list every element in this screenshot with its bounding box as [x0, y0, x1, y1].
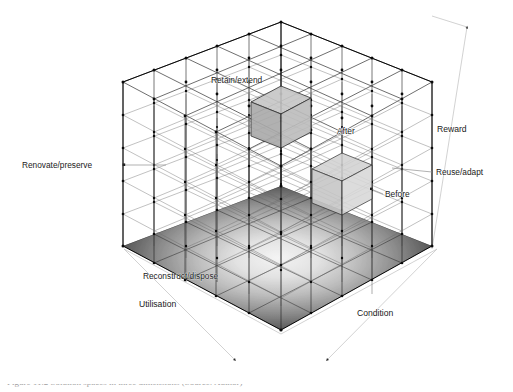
marker-label-after: After — [337, 126, 355, 136]
label-reuse-adapt: Reuse/adapt — [436, 167, 484, 177]
label-reconstruct-dispose: Reconstruct/dispose — [143, 271, 219, 281]
axis-label-utilisation: Utilisation — [139, 299, 176, 309]
label-renovate-preserve: Renovate/preserve — [22, 160, 92, 170]
tick-renovate — [123, 163, 126, 166]
marker-label-before: Before — [385, 189, 410, 199]
tick-before — [370, 188, 372, 190]
axis-label-condition: Condition — [357, 308, 394, 318]
diagram-canvas: Retain/extend Renovate/preserve Reuse/ad… — [0, 0, 513, 392]
axis-label-reward: Reward — [437, 124, 467, 134]
label-retain-extend: Retain/extend — [211, 75, 263, 85]
figure-3d-lattice-diagram: Retain/extend Renovate/preserve Reuse/ad… — [0, 0, 513, 392]
